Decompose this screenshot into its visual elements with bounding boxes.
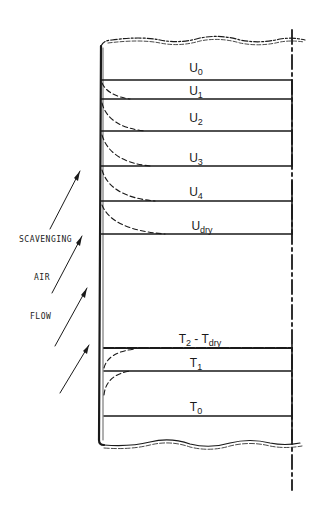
bottom-break-line	[104, 440, 300, 446]
curve-T1	[104, 349, 135, 368]
label-U1: U1	[189, 85, 203, 100]
curve-U4	[102, 170, 155, 201]
diagram-canvas	[0, 0, 325, 510]
curve-T0	[104, 371, 130, 395]
label-T2-Tdry: T2 - Tdry	[179, 333, 222, 348]
curve-U3	[102, 135, 150, 166]
arrowhead-icon	[74, 171, 80, 181]
label-T0: T0	[190, 401, 202, 416]
label-U2: U2	[189, 112, 203, 127]
curve-U2	[102, 103, 145, 131]
top-break-line	[101, 36, 305, 46]
label-U4: U4	[189, 186, 203, 201]
label-T1: T1	[190, 357, 202, 372]
label-U0: U0	[189, 62, 203, 77]
side-label-scavenging: SCAVENGING	[19, 235, 72, 244]
label-Udry: Udry	[191, 220, 212, 235]
arrowhead-icon	[76, 236, 82, 246]
flow-arrows	[50, 171, 89, 393]
curve-U1	[102, 83, 130, 99]
side-label-flow: FLOW	[30, 312, 51, 321]
label-U3: U3	[189, 152, 203, 167]
curve-Udry	[102, 205, 165, 234]
side-label-air: AIR	[34, 273, 50, 282]
